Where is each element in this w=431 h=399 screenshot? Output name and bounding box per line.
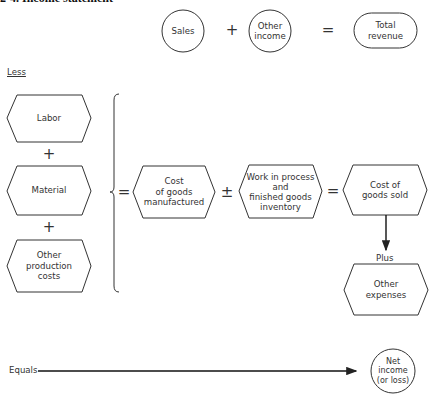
other-income-label: Other income <box>249 10 291 52</box>
plus-label: Plus <box>376 253 394 263</box>
inventory-label: Work in process and finished goods inven… <box>239 165 322 218</box>
net-income-label: Net income (or loss) <box>371 349 415 393</box>
plus-operator-1: + <box>40 144 58 164</box>
equals-operator-2: = <box>325 181 341 201</box>
material-label: Material <box>7 166 91 215</box>
equals-operator-1: = <box>116 182 132 202</box>
equals-operator: = <box>318 20 338 40</box>
plus-operator: + <box>222 20 242 40</box>
plus-operator-2: + <box>40 217 58 237</box>
total-revenue-label: Total revenue <box>354 13 417 48</box>
cost-of-goods-sold-label: Cost of goods sold <box>343 165 427 215</box>
labor-label: Labor <box>7 95 91 142</box>
other-expenses-label: Other expenses <box>344 264 428 315</box>
other-production-costs-label: Other production costs <box>7 240 91 292</box>
equals-label: Equals <box>9 365 37 375</box>
cost-of-goods-manufactured-label: Cost of goods manufactured <box>133 166 215 218</box>
sales-label: Sales <box>162 10 204 52</box>
plus-minus-operator: ± <box>219 182 235 202</box>
less-label: Less <box>7 67 26 77</box>
